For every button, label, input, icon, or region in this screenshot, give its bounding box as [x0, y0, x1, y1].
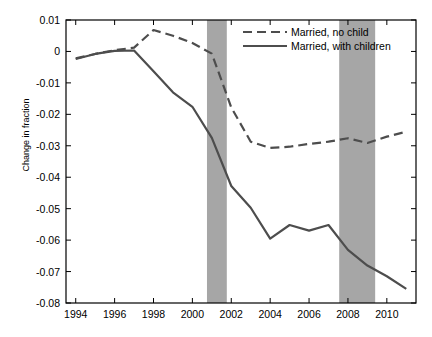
- recession-band-1: [207, 20, 227, 303]
- legend-label-1: Married, with children: [291, 40, 391, 52]
- chart-figure: Change in fraction 0.010-0.01-0.02-0.03-…: [0, 0, 432, 337]
- legend-label-0: Married, no child: [291, 26, 369, 38]
- plot-area: Married, no childMarried, with children: [0, 0, 432, 337]
- recession-band-2: [339, 20, 375, 303]
